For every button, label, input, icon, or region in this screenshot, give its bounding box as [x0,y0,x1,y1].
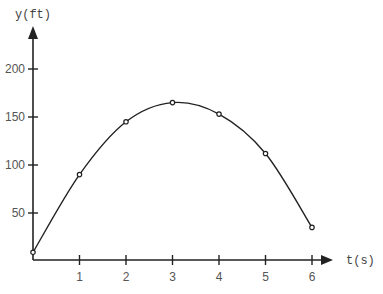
x-tick-label: 3 [169,270,176,284]
data-point [124,120,128,124]
data-point [170,100,174,104]
y-axis-arrow-icon [28,26,38,39]
data-point [263,151,267,155]
x-tick-label: 6 [309,270,316,284]
data-point [31,250,35,254]
y-tick-label: 50 [12,206,26,220]
data-point [77,172,81,176]
trajectory-curve [33,102,312,252]
y-tick-label: 150 [5,110,25,124]
trajectory-chart: 123456 50100150200 t(s) y(ft) [0,0,383,294]
axes [28,26,333,265]
x-axis-arrow-icon [321,255,333,265]
y-tick-label: 100 [5,158,25,172]
x-tick-label: 1 [76,270,83,284]
data-point [310,225,314,229]
x-axis-label: t(s) [346,254,375,268]
data-point [217,112,221,116]
data-points [31,100,314,254]
x-tick-label: 5 [262,270,269,284]
x-tick-label: 4 [216,270,223,284]
x-tick-label: 2 [123,270,130,284]
y-axis-label: y(ft) [15,8,51,22]
y-tick-label: 200 [5,62,25,76]
